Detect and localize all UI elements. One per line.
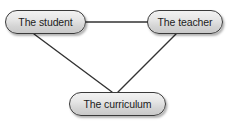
- node-the-curriculum[interactable]: The curriculum: [69, 92, 166, 116]
- node-the-curriculum-label: The curriculum: [83, 99, 151, 110]
- node-the-teacher-label: The teacher: [158, 17, 213, 28]
- node-the-teacher[interactable]: The teacher: [147, 10, 223, 34]
- node-the-student-label: The student: [18, 17, 72, 28]
- node-the-student[interactable]: The student: [5, 10, 86, 34]
- edge-teacher-curriculum: [118, 34, 176, 92]
- edge-student-curriculum: [34, 34, 112, 92]
- concept-diagram: The student The teacher The curriculum: [0, 0, 229, 123]
